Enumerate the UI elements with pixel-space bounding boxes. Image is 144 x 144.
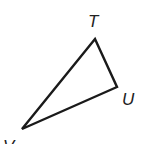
- vertex-label-u: U: [122, 90, 135, 109]
- triangle-tuv: [22, 39, 117, 129]
- triangle-diagram: T U V: [0, 0, 144, 144]
- vertex-label-v: V: [3, 137, 16, 144]
- vertex-label-t: T: [88, 12, 100, 31]
